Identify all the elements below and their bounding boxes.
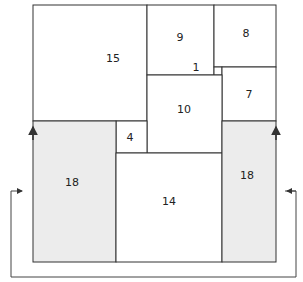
square-tiling-diagram: 159817104181418 [0, 0, 303, 282]
sq-1-label: 1 [193, 61, 200, 74]
sq-1 [214, 67, 222, 75]
sq-15-label: 15 [106, 52, 120, 65]
sq-15 [33, 5, 147, 121]
sq-8-label: 8 [243, 27, 250, 40]
sq-14-label: 14 [162, 195, 176, 208]
sq-18-right [222, 121, 276, 262]
sq-7-label: 7 [246, 88, 253, 101]
sq-9-label: 9 [177, 31, 184, 44]
sq-18-right-label: 18 [240, 169, 254, 182]
sq-4-label: 4 [127, 131, 134, 144]
sq-18-left [33, 121, 116, 262]
sq-10-label: 10 [177, 103, 191, 116]
sq-18-left-label: 18 [65, 176, 79, 189]
